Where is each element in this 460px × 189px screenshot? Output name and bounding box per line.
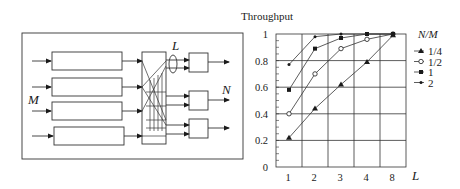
svg-text:2: 2 (428, 77, 434, 89)
y-tick-label: 0 (263, 162, 268, 173)
switch-diagram (22, 33, 243, 159)
throughput-chart: Throughput 00.20.40.60.81 12348 N/M1/41/… (241, 10, 443, 183)
chart-grid (276, 34, 406, 167)
x-tick-label: 8 (389, 172, 394, 183)
link-group-ellipse (169, 55, 177, 73)
chart-legend: N/M1/41/212 (414, 28, 443, 89)
input-module (54, 127, 124, 145)
y-tick-label: 0.6 (255, 82, 268, 93)
switch-wiring (142, 61, 166, 136)
y-tick-label: 0.8 (255, 56, 268, 67)
x-tick-label: 3 (337, 172, 342, 183)
output-module (189, 53, 208, 72)
x-tick-label: 4 (363, 172, 369, 183)
input-module (52, 102, 122, 120)
legend-item: 2 (414, 77, 434, 89)
x-tick-label: 2 (311, 172, 316, 183)
legend-title: N/M (417, 28, 438, 40)
y-tick-label: 0.2 (255, 135, 268, 146)
x-axis-ticks: 12348 (285, 172, 394, 183)
link-label: L (171, 38, 179, 53)
output-module (189, 119, 208, 138)
y-tick-label: 0.4 (255, 109, 269, 120)
x-tick-label: 1 (285, 172, 290, 183)
input-module (52, 78, 122, 96)
series-1-2 (287, 32, 395, 116)
x-axis-label: L (411, 168, 419, 183)
input-label: M (27, 92, 40, 107)
input-module (52, 52, 122, 70)
figure: M L N Throughput 00.20.40.60.81 12348 N/… (0, 0, 460, 189)
y-tick-label: 1 (263, 29, 268, 40)
output-module (189, 91, 208, 110)
chart-series (286, 32, 396, 140)
output-label: N (221, 82, 232, 97)
y-axis-ticks: 00.20.40.60.81 (255, 29, 269, 173)
chart-title: Throughput (241, 10, 293, 22)
